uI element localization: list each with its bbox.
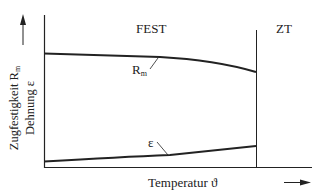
region-label-fest: FEST <box>136 22 166 35</box>
x-arrow-icon <box>300 180 311 186</box>
x-axis-label: Temperatur ϑ <box>148 176 217 189</box>
rm-curve <box>44 54 256 73</box>
region-label-zt: ZT <box>276 22 292 35</box>
y-axis-label-line1: Zugfestigkeit Rm <box>8 44 24 172</box>
y-axis-label-line2: Dehnung ε <box>24 44 37 172</box>
y-arrow-icon <box>20 14 26 25</box>
y-axis-label: Zugfestigkeit Rm Dehnung ε <box>8 44 37 172</box>
curve-label-epsilon: ε <box>148 136 153 149</box>
rm-leader <box>150 58 158 69</box>
curve-label-rm: Rm <box>132 63 147 78</box>
epsilon-leader <box>157 142 168 155</box>
